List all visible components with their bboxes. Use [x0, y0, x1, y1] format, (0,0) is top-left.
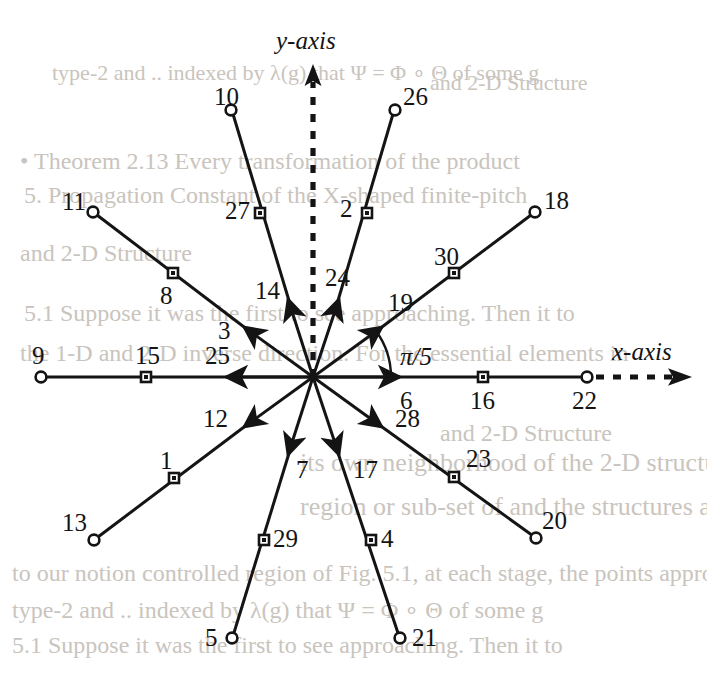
figure-canvas: type-2 and .. indexed by λ(g) that Ψ = Φ…: [0, 0, 707, 686]
y-axis-label: y-axis: [276, 28, 336, 53]
point-label-3: 3: [218, 318, 231, 343]
point-label-17: 17: [353, 457, 378, 482]
point-label-15: 15: [135, 343, 160, 368]
ray-252deg: [227, 377, 313, 643]
point-label-25: 25: [205, 343, 230, 368]
point-label-19: 19: [388, 290, 413, 315]
point-label-22: 22: [572, 388, 597, 413]
point-label-11: 11: [62, 189, 86, 214]
ray-108deg: [226, 105, 313, 377]
origin-point: [309, 373, 317, 381]
point-label-18: 18: [544, 188, 569, 213]
point-label-9: 9: [32, 343, 45, 368]
angle-arc: [376, 331, 391, 377]
point-label-12: 12: [203, 406, 228, 431]
ray-72deg: [313, 105, 400, 377]
point-label-30: 30: [434, 244, 459, 269]
point-label-26: 26: [403, 84, 428, 109]
point-label-1: 1: [160, 448, 173, 473]
point-label-10: 10: [214, 84, 239, 109]
y-axis: [305, 64, 322, 377]
point-label-20: 20: [542, 508, 567, 533]
ray-288deg: [313, 377, 405, 643]
ray-diagram-svg: [0, 0, 707, 686]
ray-324deg: [313, 377, 541, 543]
point-label-2: 2: [340, 196, 353, 221]
point-label-4: 4: [381, 526, 394, 551]
point-label-13: 13: [62, 510, 87, 535]
point-label-28: 28: [395, 406, 420, 431]
point-label-8: 8: [160, 283, 173, 308]
angle-label: π/5: [400, 344, 432, 369]
x-axis-label: x-axis: [612, 339, 672, 364]
ray-216deg: [89, 377, 313, 545]
point-label-14: 14: [255, 278, 280, 303]
point-label-23: 23: [466, 446, 491, 471]
point-label-7: 7: [296, 457, 309, 482]
point-label-16: 16: [470, 388, 495, 413]
point-label-21: 21: [412, 625, 437, 650]
point-label-27: 27: [225, 198, 250, 223]
point-label-5: 5: [205, 625, 218, 650]
point-label-24: 24: [325, 265, 350, 290]
point-label-29: 29: [273, 526, 298, 551]
